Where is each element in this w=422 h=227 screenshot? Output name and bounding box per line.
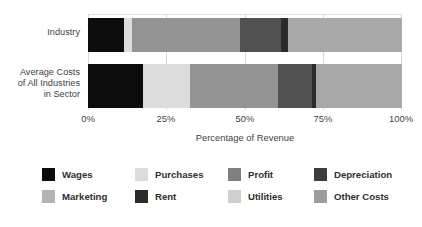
grid-area <box>88 14 402 110</box>
bar-segment-marketing <box>190 64 278 108</box>
category-label-industry: Industry <box>47 27 80 38</box>
legend-item-other-costs: Other Costs <box>314 186 392 206</box>
legend-label: Profit <box>248 169 273 180</box>
category-label-average-costs: Average Costs of All Industries in Secto… <box>18 67 80 101</box>
legend-swatch-icon <box>135 168 148 181</box>
bar-segment-other-costs <box>316 64 402 108</box>
legend-item-rent: Rent <box>135 186 228 206</box>
legend-row-1: Wages Purchases Profit Depreciation <box>42 164 392 184</box>
legend-swatch-icon <box>228 168 241 181</box>
bar-segment-marketing <box>132 18 240 52</box>
legend-swatch-icon <box>228 190 241 203</box>
legend-label: Depreciation <box>334 169 392 180</box>
x-tick-50: 50% <box>236 113 255 124</box>
bar-segment-profit <box>278 64 312 108</box>
legend-label: Utilities <box>248 191 283 202</box>
category-axis-labels: Industry Average Costs of All Industries… <box>0 0 84 110</box>
legend-swatch-icon <box>314 168 327 181</box>
legend-item-wages: Wages <box>42 164 135 184</box>
legend-swatch-icon <box>314 190 327 203</box>
stacked-bar-chart: Industry Average Costs of All Industries… <box>0 0 422 227</box>
x-axis-title: Percentage of Revenue <box>88 132 402 143</box>
x-tick-0: 0% <box>81 113 95 124</box>
legend-item-marketing: Marketing <box>42 186 135 206</box>
legend-swatch-icon <box>42 190 55 203</box>
legend-item-depreciation: Depreciation <box>314 164 392 184</box>
x-tick-100: 100% <box>389 113 413 124</box>
legend-swatch-icon <box>42 168 55 181</box>
legend-item-purchases: Purchases <box>135 164 228 184</box>
plot-area: Industry Average Costs of All Industries… <box>0 0 422 132</box>
bar-segment-rent <box>281 18 288 52</box>
legend-label: Marketing <box>62 191 107 202</box>
legend-row-2: Marketing Rent Utilities Other Costs <box>42 186 392 206</box>
legend-item-utilities: Utilities <box>228 186 314 206</box>
legend-label: Other Costs <box>334 191 389 202</box>
bar-segment-profit <box>240 18 281 52</box>
legend-label: Purchases <box>155 169 204 180</box>
legend-item-profit: Profit <box>228 164 314 184</box>
chart-legend: Wages Purchases Profit Depreciation Mark… <box>42 164 392 214</box>
legend-label: Wages <box>62 169 93 180</box>
bar-segment-wages <box>88 64 143 108</box>
bar-industry <box>88 18 402 52</box>
bar-segment-wages <box>88 18 124 52</box>
bar-segment-purchases <box>143 64 190 108</box>
x-axis-ticks: 0% 25% 50% 75% 100% <box>88 110 402 128</box>
legend-swatch-icon <box>135 190 148 203</box>
x-tick-25: 25% <box>157 113 176 124</box>
bar-segment-purchases <box>124 18 132 52</box>
legend-label: Rent <box>155 191 176 202</box>
bar-average-costs <box>88 64 402 108</box>
x-tick-75: 75% <box>314 113 333 124</box>
bar-segment-other-costs <box>288 18 402 52</box>
